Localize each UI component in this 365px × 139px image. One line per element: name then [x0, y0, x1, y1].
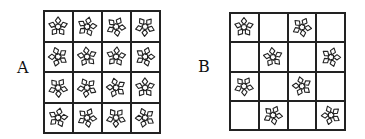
grid-cell-filled — [73, 42, 102, 73]
flower-tile-icon — [262, 46, 284, 68]
grid-cell-filled — [131, 72, 160, 103]
grid-cell-empty — [230, 101, 259, 130]
panel-b-grid — [229, 12, 346, 131]
grid-cell-filled — [73, 72, 102, 103]
panel-a-label: A — [17, 60, 29, 76]
grid-cell-filled — [259, 101, 288, 130]
grid-cell-filled — [230, 13, 259, 42]
grid-cell-filled — [102, 72, 131, 103]
grid-cell-empty — [288, 42, 317, 71]
grid-cell-filled — [102, 103, 131, 134]
flower-tile-icon — [320, 104, 342, 126]
grid-cell-empty — [316, 13, 345, 42]
flower-tile-icon — [105, 76, 127, 99]
grid-cell-empty — [259, 13, 288, 42]
grid-cell-filled — [102, 11, 131, 42]
grid-cell-filled — [73, 103, 102, 134]
panel-b-label: B — [198, 59, 210, 75]
flower-tile-icon — [262, 104, 284, 126]
flower-tile-icon — [76, 45, 98, 68]
flower-tile-icon — [291, 75, 313, 97]
panel-a-grid — [43, 10, 161, 134]
flower-tile-icon — [105, 106, 127, 129]
flower-tile-icon — [76, 76, 98, 99]
flower-tile-icon — [134, 76, 156, 99]
grid-cell-filled — [316, 42, 345, 71]
grid-cell-filled — [259, 42, 288, 71]
flower-tile-icon — [105, 45, 127, 68]
grid-cell-empty — [288, 101, 317, 130]
flower-tile-icon — [233, 16, 255, 38]
grid-cell-empty — [259, 72, 288, 101]
flower-tile-icon — [105, 15, 127, 38]
grid-cell-filled — [131, 42, 160, 73]
grid-cell-filled — [288, 13, 317, 42]
grid-cell-filled — [44, 72, 73, 103]
grid-cell-filled — [44, 103, 73, 134]
flower-tile-icon — [134, 15, 156, 38]
flower-tile-icon — [233, 75, 255, 97]
grid-cell-filled — [73, 11, 102, 42]
grid-cell-filled — [316, 101, 345, 130]
grid-cell-filled — [102, 42, 131, 73]
grid-cell-filled — [44, 11, 73, 42]
grid-cell-filled — [230, 72, 259, 101]
grid-cell-filled — [44, 42, 73, 73]
grid-cell-filled — [131, 11, 160, 42]
flower-tile-icon — [134, 45, 156, 68]
flower-tile-icon — [76, 106, 98, 129]
flower-tile-icon — [47, 15, 69, 38]
grid-cell-filled — [131, 103, 160, 134]
flower-tile-icon — [320, 46, 342, 68]
flower-tile-icon — [291, 16, 313, 38]
flower-tile-icon — [47, 106, 69, 129]
flower-tile-icon — [47, 76, 69, 99]
flower-tile-icon — [134, 106, 156, 129]
grid-cell-empty — [230, 42, 259, 71]
flower-tile-icon — [47, 45, 69, 68]
grid-cell-empty — [316, 72, 345, 101]
grid-cell-filled — [288, 72, 317, 101]
flower-tile-icon — [76, 15, 98, 38]
